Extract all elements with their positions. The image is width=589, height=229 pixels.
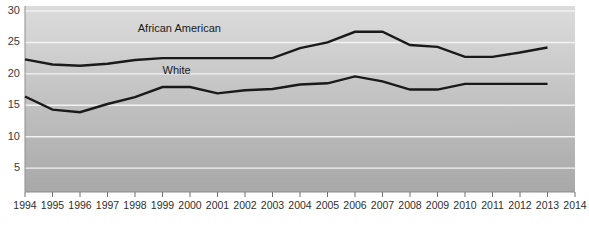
series-annotation-african-american: African American [138, 23, 221, 34]
x-axis-label-2014: 2014 [558, 200, 589, 211]
y-axis-label-5: 5 [0, 162, 20, 173]
series-annotation-white: White [163, 65, 191, 76]
line-chart: 5101520253019941995199619971998199920002… [0, 0, 589, 229]
plot-background [25, 6, 575, 192]
chart-canvas [0, 0, 589, 229]
y-axis-label-25: 25 [0, 36, 20, 47]
y-axis-label-15: 15 [0, 99, 20, 110]
y-axis-label-10: 10 [0, 131, 20, 142]
y-axis-label-30: 30 [0, 5, 20, 16]
x-tick-marks [25, 192, 575, 197]
y-axis-label-20: 20 [0, 68, 20, 79]
